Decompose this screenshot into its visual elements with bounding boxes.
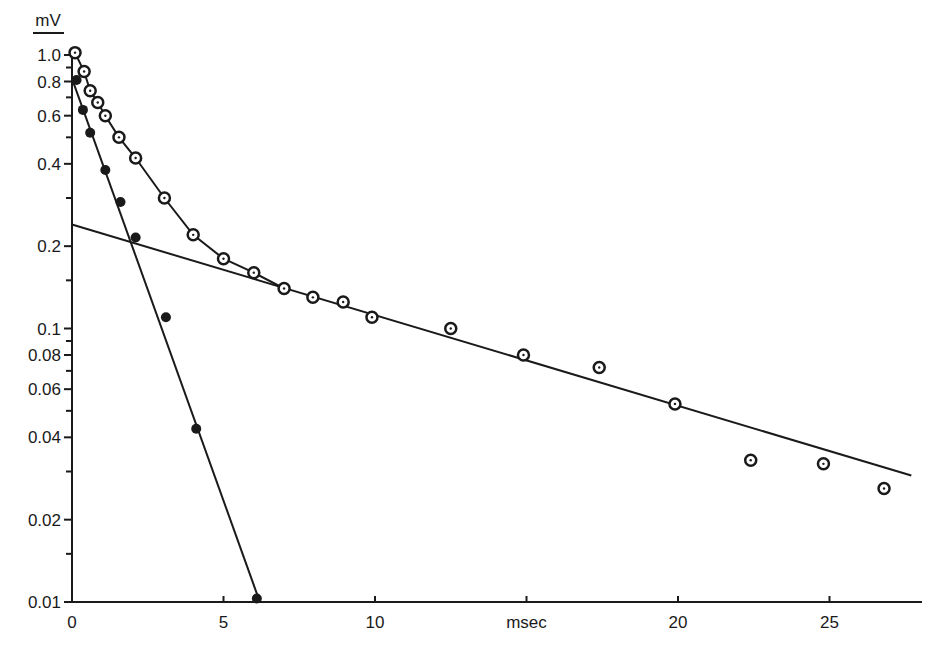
y-axis-label: mV (35, 11, 61, 30)
axes (72, 50, 922, 602)
y-tick-label: 0.06 (28, 380, 61, 399)
y-tick-label: 0.2 (37, 237, 61, 256)
data-point-center-dot (371, 316, 373, 318)
data-point-center-dot (822, 463, 824, 465)
x-tick-label: 10 (366, 613, 385, 632)
data-point-center-dot (283, 287, 285, 289)
data-point-center-dot (312, 296, 314, 298)
filled-data-point (161, 312, 171, 322)
data-point-center-dot (522, 354, 524, 356)
y-tick-label: 0.08 (28, 346, 61, 365)
data-point-center-dot (118, 136, 120, 138)
y-tick-label: 0.02 (28, 511, 61, 530)
data-point-center-dot (134, 157, 136, 159)
y-tick-label: 0.01 (28, 593, 61, 612)
filled-data-point (85, 128, 95, 138)
data-point-center-dot (883, 487, 885, 489)
data-point-center-dot (74, 51, 76, 53)
x-tick-label: 0 (67, 613, 76, 632)
filled-data-point (252, 593, 262, 603)
data-point-center-dot (342, 301, 344, 303)
data-point-center-dot (253, 271, 255, 273)
filled-data-point (131, 233, 141, 243)
fit-line (72, 79, 260, 602)
filled-data-point (72, 75, 82, 85)
data-series (70, 47, 890, 603)
data-point-center-dot (222, 257, 224, 259)
data-point-center-dot (192, 234, 194, 236)
y-tick-label: 0.1 (37, 320, 61, 339)
filled-data-point (78, 105, 88, 115)
data-point-center-dot (750, 459, 752, 461)
decay-chart: 1.00.80.60.40.20.10.080.060.040.020.01 0… (0, 0, 936, 648)
filled-data-point (115, 197, 125, 207)
y-tick-label: 0.6 (37, 107, 61, 126)
x-tick-label: 20 (669, 613, 688, 632)
data-point-center-dot (83, 70, 85, 72)
fit-line (72, 225, 911, 476)
y-axis-title: mV (33, 11, 64, 33)
data-point-center-dot (104, 114, 106, 116)
y-tick-label: 0.04 (28, 428, 61, 447)
data-point-center-dot (450, 327, 452, 329)
y-ticks: 1.00.80.60.40.20.10.080.060.040.020.01 (28, 46, 72, 612)
filled-data-point (100, 165, 110, 175)
x-tick-label: 25 (820, 613, 839, 632)
data-point-center-dot (674, 403, 676, 405)
data-point-center-dot (97, 101, 99, 103)
data-point-center-dot (89, 90, 91, 92)
x-axis-label: msec (506, 613, 547, 632)
y-tick-label: 0.8 (37, 73, 61, 92)
data-point-center-dot (163, 197, 165, 199)
y-tick-label: 0.4 (37, 155, 61, 174)
fit-lines (72, 79, 911, 602)
x-tick-label: 5 (219, 613, 228, 632)
y-tick-label: 1.0 (37, 46, 61, 65)
data-point-center-dot (598, 366, 600, 368)
filled-data-point (191, 424, 201, 434)
